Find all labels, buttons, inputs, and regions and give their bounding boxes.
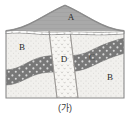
unit-label-A: A [68, 12, 75, 22]
unit-label-B-left: B [19, 42, 25, 52]
lower-block [5, 30, 125, 99]
unit-label-D: D [61, 54, 68, 64]
unit-A-region [6, 5, 124, 34]
geologic-cross-section-figure: A B B C D (가) [0, 0, 130, 124]
figure-caption: (가) [0, 102, 130, 114]
unit-label-B-right: B [107, 72, 113, 82]
unit-label-C: C [89, 52, 95, 62]
